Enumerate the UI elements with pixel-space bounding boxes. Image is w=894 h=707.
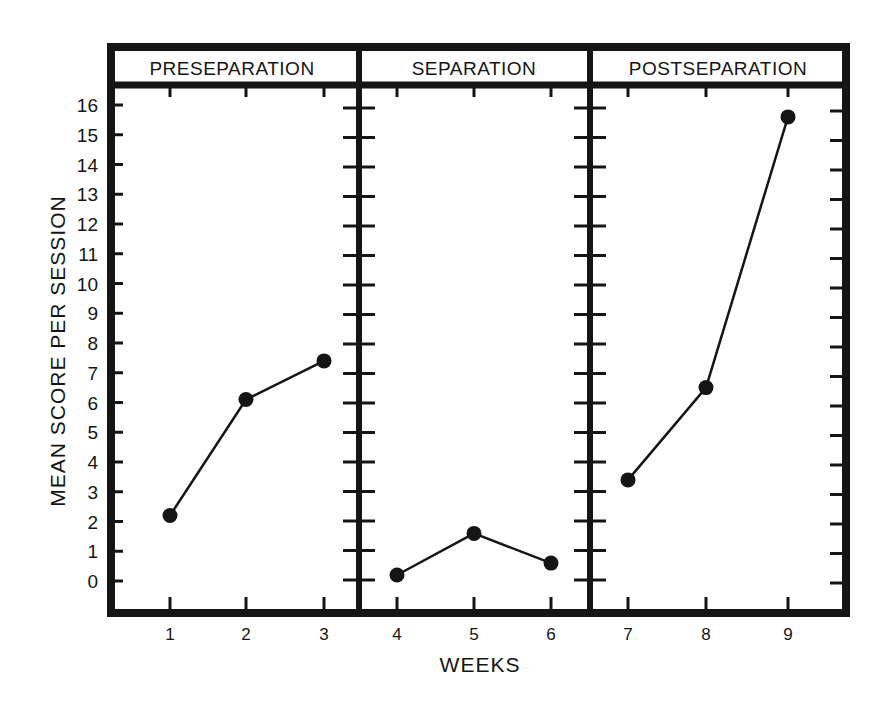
y-axis-label: MEAN SCORE PER SESSION [46,195,69,506]
series-line-postseparation [628,117,788,480]
data-point [621,472,636,487]
y-tick-labels: 012345678910111213141516 [77,95,99,592]
y-tick-label: 10 [77,274,98,295]
x-tick-label: 6 [546,625,555,644]
y-tick-label: 3 [87,482,98,503]
data-point [544,556,559,571]
x-tick-label: 1 [165,625,174,644]
x-tick-label: 9 [783,625,792,644]
y-tick-label: 7 [87,363,98,384]
panel-title-separation: SEPARATION [412,58,537,79]
y-tick-label: 9 [87,303,98,324]
x-tick-label: 3 [319,625,328,644]
data-point [699,380,714,395]
y-tick-label: 2 [87,512,98,533]
x-tick-label: 4 [392,625,401,644]
series-line-preseparation [170,361,324,516]
data-series [163,109,796,582]
panel-title-preseparation: PRESEPARATION [149,58,314,79]
line-chart: 012345678910111213141516 123456789 PRESE… [0,0,894,707]
y-tick-label: 14 [77,155,99,176]
x-tick-labels: 123456789 [165,625,792,644]
y-tick-label: 12 [77,214,98,235]
y-tick-label: 15 [77,125,98,146]
y-tick-label: 4 [87,452,98,473]
panel-titles: PRESEPARATIONSEPARATIONPOSTSEPARATION [149,58,807,79]
x-tick-label: 2 [241,625,250,644]
x-tick-label: 5 [469,625,478,644]
data-point [163,508,178,523]
y-tick-label: 11 [78,244,98,265]
y-tick-label: 1 [87,541,98,562]
data-point [467,526,482,541]
x-tick-label: 8 [701,625,710,644]
y-tick-label: 0 [87,571,98,592]
x-axis-label: WEEKS [440,653,521,676]
y-tick-label: 8 [87,333,98,354]
panel-title-postseparation: POSTSEPARATION [629,58,807,79]
y-tick-label: 5 [87,422,98,443]
data-point [781,109,796,124]
x-tick-label: 7 [623,625,632,644]
data-point [317,353,332,368]
y-tick-label: 6 [87,393,98,414]
y-tick-label: 13 [77,184,98,205]
data-point [390,568,405,583]
data-point [239,392,254,407]
y-tick-label: 16 [77,95,98,116]
